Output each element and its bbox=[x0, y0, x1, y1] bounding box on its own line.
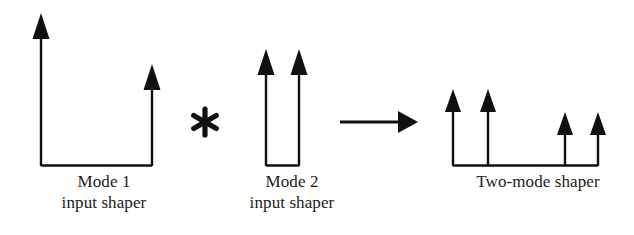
caption-mode-1: Mode 1 input shaper bbox=[30, 171, 178, 213]
implies-arrow-icon bbox=[340, 111, 418, 133]
impulse-result-2 bbox=[480, 89, 496, 166]
caption-two-mode-shaper: Two-mode shaper bbox=[452, 171, 624, 192]
panel-mode-2-input-shaper bbox=[258, 49, 308, 166]
impulse-mode2-1 bbox=[258, 49, 275, 166]
convolution-asterisk-icon bbox=[194, 109, 217, 135]
caption-mode-1-line-2: input shaper bbox=[30, 192, 178, 213]
impulse-result-3 bbox=[557, 112, 573, 166]
impulse-result-4 bbox=[590, 112, 606, 166]
caption-mode-2-line-1: Mode 2 bbox=[218, 171, 366, 192]
impulse-mode1-2 bbox=[144, 64, 161, 166]
caption-mode-1-line-1: Mode 1 bbox=[30, 171, 178, 192]
panel-two-mode-shaper bbox=[445, 89, 606, 166]
caption-mode-2: Mode 2 input shaper bbox=[218, 171, 366, 213]
impulse-result-1 bbox=[445, 89, 461, 166]
caption-mode-2-line-2: input shaper bbox=[218, 192, 366, 213]
figure-canvas: Mode 1 input shaper Mode 2 input shaper … bbox=[0, 0, 634, 235]
panel-mode-1-input-shaper bbox=[33, 13, 161, 166]
impulse-mode1-1 bbox=[33, 13, 50, 166]
caption-two-mode-line-1: Two-mode shaper bbox=[452, 171, 624, 192]
impulse-mode2-2 bbox=[291, 49, 308, 166]
